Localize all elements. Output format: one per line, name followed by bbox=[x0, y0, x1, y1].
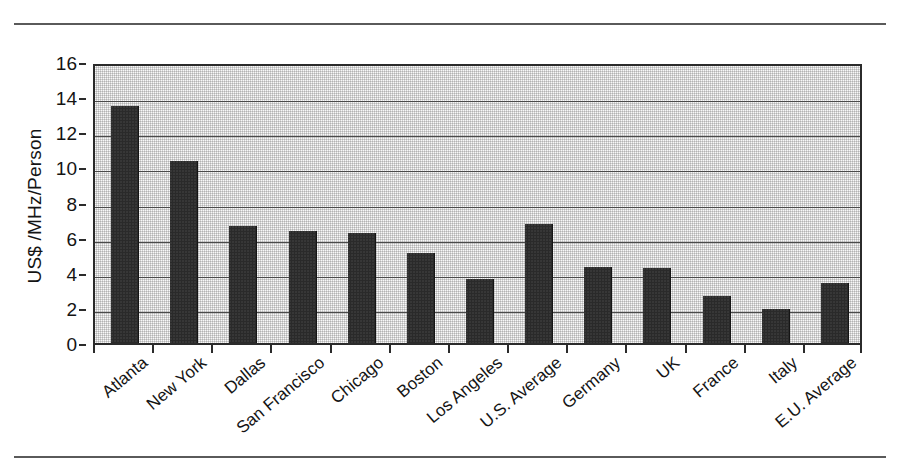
bar bbox=[584, 267, 612, 343]
y-tick-label: 2 bbox=[66, 299, 77, 321]
x-tick-mark bbox=[803, 345, 805, 353]
x-tick-mark bbox=[211, 345, 213, 353]
y-tick-label: 14 bbox=[56, 88, 77, 110]
bar bbox=[348, 233, 376, 343]
y-tick-mark bbox=[79, 239, 86, 241]
y-tick-mark bbox=[79, 309, 86, 311]
bar bbox=[703, 296, 731, 343]
bar bbox=[762, 309, 790, 343]
y-tick-label: 10 bbox=[56, 158, 77, 180]
x-tick-mark bbox=[566, 345, 568, 353]
x-tick-mark bbox=[685, 345, 687, 353]
x-axis-category-label: UK bbox=[653, 353, 684, 384]
x-tick-mark bbox=[389, 345, 391, 353]
bar bbox=[643, 268, 671, 343]
bar bbox=[466, 279, 494, 343]
x-axis-category-label: Dallas bbox=[221, 353, 270, 399]
x-axis-category-label: Boston bbox=[394, 353, 447, 402]
y-tick-mark bbox=[79, 344, 86, 346]
x-tick-mark bbox=[860, 345, 862, 353]
y-axis-title: US$ /MHz/Person bbox=[24, 96, 46, 316]
x-axis-ticks bbox=[93, 345, 862, 353]
y-axis-ticks: 0246810121416 bbox=[50, 64, 86, 345]
x-axis-category-label: Italy bbox=[765, 353, 802, 388]
bar bbox=[525, 224, 553, 343]
bar bbox=[407, 253, 435, 343]
x-tick-mark bbox=[270, 345, 272, 353]
x-tick-mark bbox=[448, 345, 450, 353]
bar bbox=[170, 161, 198, 343]
x-axis-category-label: Chicago bbox=[327, 353, 388, 408]
x-axis-labels: AtlantaNew YorkDallasSan FranciscoChicag… bbox=[93, 353, 862, 453]
plot-area bbox=[93, 64, 862, 345]
x-tick-mark bbox=[625, 345, 627, 353]
x-tick-mark bbox=[744, 345, 746, 353]
x-axis-category-label: France bbox=[690, 353, 743, 402]
y-tick-mark bbox=[79, 204, 86, 206]
x-axis-category-label: Atlanta bbox=[98, 353, 151, 402]
y-tick-label: 6 bbox=[66, 229, 77, 251]
bar bbox=[229, 226, 257, 343]
x-tick-mark bbox=[93, 345, 95, 353]
x-axis-category-label: New York bbox=[143, 353, 211, 414]
x-tick-mark bbox=[507, 345, 509, 353]
y-tick-label: 4 bbox=[66, 264, 77, 286]
x-tick-mark bbox=[330, 345, 332, 353]
y-tick-mark bbox=[79, 274, 86, 276]
x-axis-category-label: Germany bbox=[558, 353, 624, 413]
y-tick-label: 16 bbox=[56, 53, 77, 75]
y-tick-label: 12 bbox=[56, 123, 77, 145]
y-tick-mark bbox=[79, 63, 86, 65]
bars-layer bbox=[95, 66, 860, 343]
y-tick-label: 8 bbox=[66, 194, 77, 216]
y-tick-mark bbox=[79, 168, 86, 170]
bar bbox=[289, 231, 317, 343]
y-tick-label: 0 bbox=[66, 334, 77, 356]
bar-chart-figure: US$ /MHz/Person 0246810121416 AtlantaNew… bbox=[0, 0, 903, 473]
y-tick-mark bbox=[79, 98, 86, 100]
x-tick-mark bbox=[152, 345, 154, 353]
bar bbox=[821, 283, 849, 343]
y-tick-mark bbox=[79, 133, 86, 135]
bar bbox=[111, 106, 139, 343]
